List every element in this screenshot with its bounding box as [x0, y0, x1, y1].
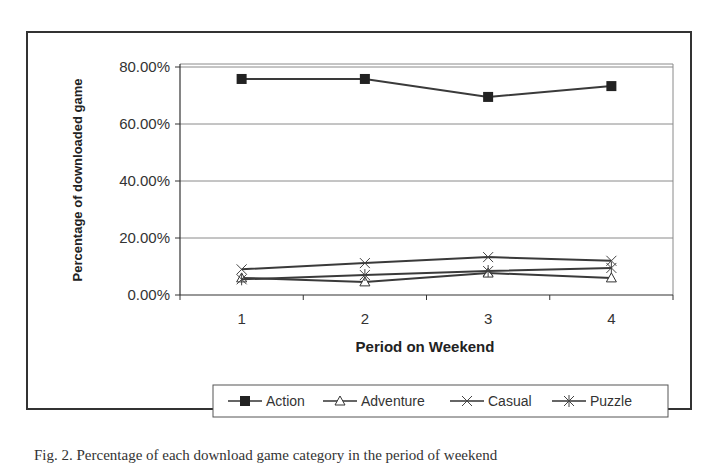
y-tick-label: 40.00% — [119, 172, 170, 189]
svg-text:Adventure: Adventure — [361, 393, 425, 409]
y-tick-label: 60.00% — [119, 115, 170, 132]
svg-text:Puzzle: Puzzle — [590, 393, 632, 409]
x-tick-label: 4 — [607, 310, 615, 327]
series-casual — [237, 252, 617, 274]
y-tick-label: 80.00% — [119, 58, 170, 75]
x-axis-title: Period on Weekend — [356, 338, 495, 355]
x-tick-label: 1 — [237, 310, 245, 327]
series-puzzle — [237, 262, 617, 285]
y-tick-label: 0.00% — [127, 286, 170, 303]
series-lines — [237, 74, 617, 286]
x-tick-label: 3 — [484, 310, 492, 327]
y-axis-title: Percentage of downloaded game — [70, 79, 85, 282]
svg-text:Action: Action — [266, 393, 305, 409]
axes: 0.00%20.00%40.00%60.00%80.00%1234 — [119, 58, 673, 327]
legend: ActionAdventureCasualPuzzle — [213, 385, 668, 417]
svg-text:Casual: Casual — [488, 393, 532, 409]
x-tick-label: 2 — [361, 310, 369, 327]
figure-caption: Fig. 2. Percentage of each download game… — [34, 447, 497, 464]
y-tick-label: 20.00% — [119, 229, 170, 246]
series-action — [237, 74, 617, 102]
